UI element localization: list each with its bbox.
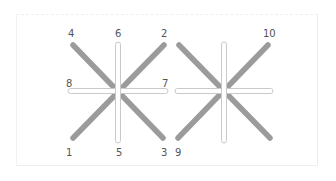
right-star [175,42,273,143]
endpoint-label: 6 [115,28,121,39]
star-diagram: 46210871539 [0,0,336,181]
vertical-bar [222,42,227,143]
left-star [68,42,168,143]
endpoint-label: 10 [263,28,276,39]
endpoint-label: 2 [161,28,167,39]
endpoint-label: 8 [66,78,72,89]
endpoint-label: 1 [66,147,72,158]
endpoint-label: 9 [175,147,181,158]
endpoint-label: 7 [162,78,168,89]
endpoint-label: 5 [116,147,122,158]
endpoint-label: 3 [161,147,167,158]
vertical-bar [116,42,121,143]
endpoint-label: 4 [68,28,74,39]
